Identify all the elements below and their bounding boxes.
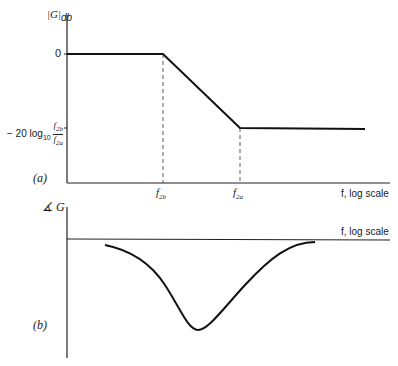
panel-b-x-axis [67,239,390,240]
panel-b-label: (b) [33,318,47,333]
panel-b-x-label: f, log scale [341,226,389,237]
y-tick-zero-label: 0 [55,47,61,59]
x-tick-f2b: f2b [156,186,166,201]
phase-curve [105,242,315,330]
panel-a-label: (a) [33,171,47,186]
panel-a-y-label: |G|db [47,8,72,23]
magnitude-curve [67,54,365,129]
y-tick-low-label: − 20 log10 f2b f2a [7,121,63,148]
panel-a-x-label: f, log scale [341,188,389,199]
panel-b-y-label: ∡ G [42,200,65,215]
x-tick-f2a: f2a [233,186,243,201]
